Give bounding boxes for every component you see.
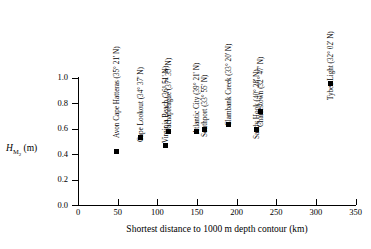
y-axis-subscript: M2	[13, 148, 21, 155]
data-point-label: Avon Cape Hatteras (35° 21' N)	[114, 46, 121, 138]
y-tick-label: 1.0	[42, 73, 68, 82]
scatter-chart: 0.00.20.40.60.81.0 050100150200250300350…	[0, 0, 371, 249]
y-tick	[72, 205, 78, 206]
x-tick	[356, 199, 357, 205]
data-point-label: Southport (33° 55' N)	[202, 75, 209, 137]
x-axis-line	[78, 205, 356, 206]
data-point	[114, 149, 119, 154]
y-tick	[72, 103, 78, 104]
data-point-label: Cape Lookout (34° 37' N)	[138, 67, 145, 142]
y-axis-unit: (m)	[24, 143, 38, 153]
x-tick-label: 300	[301, 208, 331, 217]
y-tick-label: 0.6	[42, 124, 68, 133]
x-tick-label: 250	[261, 208, 291, 217]
y-axis-title: HM2 (m)	[6, 143, 37, 157]
data-point	[163, 143, 168, 148]
x-tick	[316, 199, 317, 205]
x-axis-title: Shortest distance to 1000 m depth contou…	[78, 224, 356, 234]
x-tick	[118, 199, 119, 205]
data-point-label: Charlestown (32° 47' N)	[258, 57, 265, 127]
x-tick	[157, 199, 158, 205]
y-axis-symbol: H	[6, 143, 13, 153]
data-point-label: Wachapreague (37° 35' N)	[166, 58, 173, 134]
x-tick-label: 350	[341, 208, 371, 217]
y-tick-label: 0.4	[42, 150, 68, 159]
y-tick-label: 0.2	[42, 175, 68, 184]
y-tick	[72, 180, 78, 181]
x-tick-label: 50	[103, 208, 133, 217]
x-tick	[237, 199, 238, 205]
x-tick-label: 150	[182, 208, 212, 217]
x-tick-label: 0	[63, 208, 93, 217]
y-tick-label: 0.8	[42, 99, 68, 108]
x-tick	[276, 199, 277, 205]
plot-area: 0.00.20.40.60.81.0 050100150200250300350…	[0, 0, 371, 249]
x-tick-label: 200	[222, 208, 252, 217]
y-tick	[72, 154, 78, 155]
y-tick	[72, 129, 78, 130]
x-tick-label: 100	[142, 208, 172, 217]
data-point-label: Clambank Creek (33° 20' N)	[226, 44, 233, 126]
data-point-label: Tybee Light (32° 02' N)	[328, 31, 335, 100]
y-axis-line	[78, 77, 79, 206]
y-tick	[72, 78, 78, 79]
x-tick	[197, 199, 198, 205]
